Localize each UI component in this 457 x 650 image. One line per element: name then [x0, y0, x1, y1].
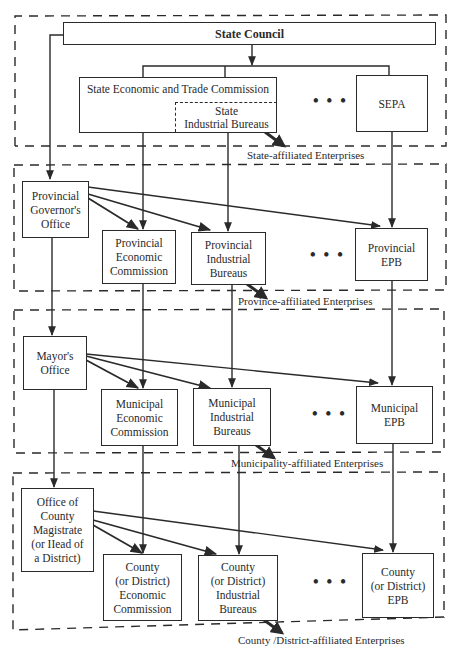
ellipsis: • • •	[313, 92, 348, 110]
sepa-box: SEPA	[356, 75, 428, 132]
county-economic-commission-box: County (or District) Economic Commission	[103, 554, 182, 621]
ellipsis: • • •	[313, 573, 348, 591]
municipality-enterprises-label: Municipality-affiliated Enterprises	[231, 457, 383, 469]
state-industrial-bureaus-subbox: State Industrial Bureaus	[175, 102, 277, 132]
provincial-epb-box: Provincial EPB	[355, 228, 428, 281]
state-council-box: State Council	[63, 22, 436, 45]
state-enterprises-label: State-affiliated Enterprises	[247, 149, 364, 161]
provincial-industrial-bureaus-box: Provincial Industrial Bureaus	[191, 232, 266, 285]
province-enterprises-label: Province-affiliated Enterprises	[238, 295, 373, 307]
municipal-industrial-bureaus-box: Municipal Industrial Bureaus	[193, 388, 271, 446]
municipal-epb-box: Municipal EPB	[356, 386, 433, 444]
provincial-governor-office-box: Provincial Governor's Office	[22, 181, 89, 238]
county-epb-box: County (or District) EPB	[362, 553, 434, 618]
mayors-office-box: Mayor's Office	[23, 336, 87, 390]
provincial-economic-commission-box: Provincial Economic Commission	[102, 230, 176, 284]
ellipsis: • • •	[312, 405, 347, 423]
county-magistrate-office-box: Office of County Magistrate (or IIead of…	[21, 488, 94, 572]
county-enterprises-label: County /District-affiliated Enterprises	[238, 634, 405, 646]
ellipsis: • • •	[310, 246, 345, 264]
municipal-economic-commission-box: Municipal Economic Commission	[101, 389, 178, 446]
county-industrial-bureaus-box: County (or District) Industrial Bureaus	[198, 555, 278, 621]
